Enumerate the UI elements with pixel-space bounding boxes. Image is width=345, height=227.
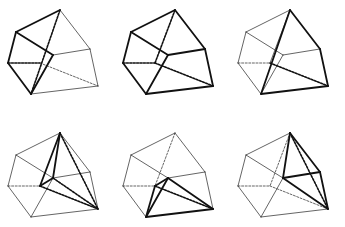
edge-MC bbox=[146, 55, 168, 94]
edge-AB bbox=[238, 32, 246, 63]
edge-XQ bbox=[270, 63, 328, 86]
edge-XQ bbox=[155, 63, 213, 86]
faint-caption-bleedthrough bbox=[30, 214, 320, 222]
edge-AB bbox=[8, 155, 16, 186]
edge-TX bbox=[155, 133, 175, 186]
edge-BC bbox=[8, 63, 31, 94]
polyhedron-panel-p2 bbox=[123, 10, 213, 94]
edge-AB bbox=[123, 32, 131, 63]
polyhedron-panel-p1 bbox=[8, 10, 98, 94]
edge-TX bbox=[40, 133, 60, 186]
edge-CQ bbox=[31, 86, 98, 94]
polyhedron-decomposition-diagram bbox=[0, 0, 345, 227]
edge-TQ bbox=[60, 133, 98, 209]
edge-XQ bbox=[40, 63, 98, 86]
edge-RT bbox=[60, 133, 90, 172]
edge-AB bbox=[123, 155, 131, 186]
edge-BC bbox=[123, 186, 146, 217]
edge-MR bbox=[168, 172, 205, 178]
edge-RT bbox=[175, 10, 205, 49]
edge-QR bbox=[205, 49, 213, 86]
edge-MR bbox=[53, 49, 90, 55]
polyhedron-panel-p3 bbox=[238, 10, 328, 94]
edge-TM bbox=[283, 133, 290, 178]
edge-XC bbox=[146, 186, 155, 217]
polyhedron-panel-p5 bbox=[123, 133, 213, 217]
edge-QC bbox=[261, 86, 328, 94]
polyhedron-panel-p6 bbox=[238, 133, 328, 217]
edge-BC bbox=[238, 63, 261, 94]
edge-MR bbox=[168, 49, 205, 55]
edge-TR bbox=[290, 133, 320, 172]
edge-TR bbox=[290, 10, 320, 49]
edge-TA bbox=[131, 133, 175, 155]
edge-TQ bbox=[290, 133, 328, 209]
edge-BC bbox=[238, 186, 261, 217]
edge-MR bbox=[53, 172, 90, 178]
edge-MR bbox=[283, 49, 320, 55]
edge-MQ bbox=[283, 178, 328, 209]
edge-BC bbox=[8, 186, 31, 217]
edge-AB bbox=[238, 155, 246, 186]
edge-MR bbox=[283, 172, 320, 178]
edge-RQ bbox=[320, 49, 328, 86]
edge-QR bbox=[90, 49, 98, 86]
edge-MC bbox=[261, 178, 283, 217]
edge-BC bbox=[123, 63, 146, 94]
edge-CQ bbox=[146, 86, 213, 94]
edge-TA bbox=[246, 133, 290, 155]
edge-AM bbox=[16, 32, 53, 55]
edge-RT bbox=[175, 133, 205, 172]
edge-RT bbox=[60, 10, 90, 49]
edge-AB bbox=[8, 32, 16, 63]
polyhedron-panel-p4 bbox=[8, 133, 98, 217]
